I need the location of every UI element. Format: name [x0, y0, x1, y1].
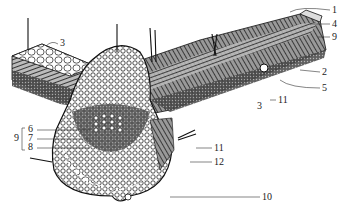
label-9-left: 9 — [14, 133, 19, 143]
label-11-bottom: 11 — [214, 143, 224, 153]
label-9-right: 9 — [332, 32, 337, 42]
leaf-section-drawing — [0, 0, 346, 220]
label-11-top: 11 — [278, 95, 288, 105]
label-3-right: 3 — [257, 101, 262, 111]
label-12: 12 — [214, 157, 224, 167]
label-10: 10 — [262, 192, 272, 202]
label-5: 5 — [322, 83, 327, 93]
label-4: 4 — [332, 19, 337, 29]
label-1: 1 — [332, 5, 337, 15]
label-3-left: 3 — [60, 38, 65, 48]
label-8: 8 — [28, 142, 33, 152]
label-2: 2 — [322, 67, 327, 77]
diagram-figure: 1 4 9 2 5 11 3 3 6 7 8 9 11 12 10 — [0, 0, 346, 220]
